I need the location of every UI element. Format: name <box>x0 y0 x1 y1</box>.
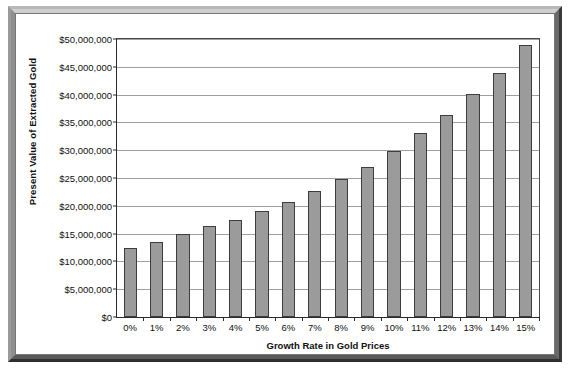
x-tick-label: 0% <box>123 322 137 333</box>
chart-figure: Present Value of Extracted Gold $0$5,000… <box>0 0 570 370</box>
x-tick-mark <box>539 317 540 321</box>
bar <box>440 115 453 317</box>
bar <box>124 248 137 317</box>
bar <box>203 226 216 317</box>
x-tick-mark <box>143 317 144 321</box>
bar <box>493 73 506 317</box>
bar <box>229 220 242 317</box>
x-tick-label: 9% <box>361 322 375 333</box>
y-tick-label: $45,000,000 <box>59 61 112 72</box>
bar <box>361 167 374 317</box>
x-tick-label: 11% <box>411 322 429 333</box>
x-axis-title: Growth Rate in Gold Prices <box>116 340 540 351</box>
x-tick-label: 4% <box>229 322 243 333</box>
y-tick-label: $20,000,000 <box>59 200 112 211</box>
y-tick-label: $15,000,000 <box>59 228 112 239</box>
y-axis-title: Present Value of Extracted Gold <box>27 12 38 252</box>
bar <box>282 202 295 317</box>
bar <box>308 191 321 317</box>
bar <box>335 179 348 317</box>
x-tick-mark <box>460 317 461 321</box>
x-tick-label: 8% <box>334 322 348 333</box>
x-tick-mark <box>302 317 303 321</box>
x-tick-label: 12% <box>437 322 456 333</box>
x-tick-label: 14% <box>490 322 509 333</box>
y-tick-label: $40,000,000 <box>59 89 112 100</box>
y-tick-label: $10,000,000 <box>59 256 112 267</box>
x-tick-mark <box>354 317 355 321</box>
x-tick-mark <box>223 317 224 321</box>
bar <box>414 133 427 317</box>
x-tick-label: 6% <box>282 322 296 333</box>
y-tick-label: $25,000,000 <box>59 173 112 184</box>
x-tick-label: 10% <box>384 322 403 333</box>
x-tick-mark <box>275 317 276 321</box>
bar <box>255 211 268 317</box>
bar <box>466 94 479 317</box>
x-tick-mark <box>434 317 435 321</box>
figure-frame-inner-bevel: Present Value of Extracted Gold $0$5,000… <box>11 9 559 359</box>
y-tick-label: $5,000,000 <box>64 284 112 295</box>
x-tick-label: 7% <box>308 322 322 333</box>
x-tick-mark <box>407 317 408 321</box>
plot-area: $0$5,000,000$10,000,000$15,000,000$20,00… <box>116 38 540 318</box>
x-tick-label: 15% <box>516 322 535 333</box>
bar <box>176 234 189 317</box>
bars-group <box>117 39 539 317</box>
x-tick-mark <box>170 317 171 321</box>
x-tick-mark <box>486 317 487 321</box>
x-tick-label: 2% <box>176 322 190 333</box>
x-tick-label: 3% <box>202 322 216 333</box>
figure-frame-outer-bevel: Present Value of Extracted Gold $0$5,000… <box>8 6 562 362</box>
y-tick-label: $35,000,000 <box>59 117 112 128</box>
y-tick-label: $50,000,000 <box>59 34 112 45</box>
plot-stage: Present Value of Extracted Gold $0$5,000… <box>16 14 554 354</box>
x-tick-mark <box>513 317 514 321</box>
x-tick-label: 13% <box>464 322 483 333</box>
x-tick-mark <box>196 317 197 321</box>
y-tick-label: $0 <box>101 312 112 323</box>
x-tick-mark <box>381 317 382 321</box>
x-tick-label: 5% <box>255 322 269 333</box>
bar <box>519 45 532 317</box>
bar <box>387 151 400 317</box>
x-tick-mark <box>249 317 250 321</box>
x-tick-mark <box>328 317 329 321</box>
bar <box>150 242 163 317</box>
y-tick-label: $30,000,000 <box>59 145 112 156</box>
figure-canvas: Present Value of Extracted Gold $0$5,000… <box>15 13 555 355</box>
x-tick-label: 1% <box>150 322 164 333</box>
